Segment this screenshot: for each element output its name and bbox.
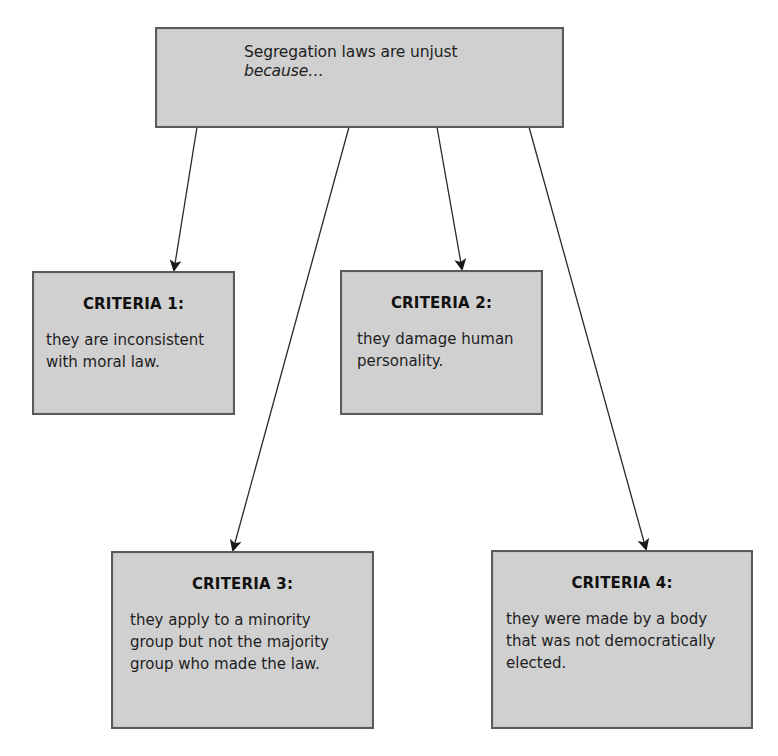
criteria-2-line-2: personality. xyxy=(357,350,514,372)
root-statement-line2: because… xyxy=(244,62,457,81)
arrow-to-criteria-1 xyxy=(174,127,197,270)
criteria-3-line-1: they apply to a minority xyxy=(130,609,329,631)
criteria-4-body: they were made by a body that was not de… xyxy=(506,608,715,674)
criteria-1-heading: CRITERIA 1: xyxy=(34,295,233,313)
root-statement: Segregation laws are unjust because… xyxy=(244,43,457,81)
arrow-to-criteria-4 xyxy=(529,127,646,549)
criteria-3-line-3: group who made the law. xyxy=(130,653,329,675)
criteria-2-body: they damage human personality. xyxy=(357,328,514,372)
criteria-4-line-3: elected. xyxy=(506,652,715,674)
criteria-3-node: CRITERIA 3: they apply to a minority gro… xyxy=(111,551,374,729)
criteria-4-node: CRITERIA 4: they were made by a body tha… xyxy=(491,550,753,729)
root-statement-line1: Segregation laws are unjust xyxy=(244,43,457,61)
criteria-2-line-1: they damage human xyxy=(357,328,514,350)
criteria-1-node: CRITERIA 1: they are inconsistent with m… xyxy=(32,271,235,415)
criteria-4-heading: CRITERIA 4: xyxy=(493,574,751,592)
criteria-4-line-2: that was not democratically xyxy=(506,630,715,652)
criteria-1-body: they are inconsistent with moral law. xyxy=(46,329,204,373)
criteria-3-body: they apply to a minority group but not t… xyxy=(130,609,329,675)
root-node: Segregation laws are unjust because… xyxy=(155,27,564,128)
criteria-3-line-2: group but not the majority xyxy=(130,631,329,653)
criteria-2-node: CRITERIA 2: they damage human personalit… xyxy=(340,270,543,415)
criteria-2-heading: CRITERIA 2: xyxy=(342,294,541,312)
criteria-4-line-1: they were made by a body xyxy=(506,608,715,630)
arrow-to-criteria-2 xyxy=(437,127,462,269)
criteria-1-line-1: they are inconsistent xyxy=(46,329,204,351)
criteria-1-line-2: with moral law. xyxy=(46,351,204,373)
arrow-to-criteria-3 xyxy=(233,127,349,550)
criteria-3-heading: CRITERIA 3: xyxy=(113,575,372,593)
